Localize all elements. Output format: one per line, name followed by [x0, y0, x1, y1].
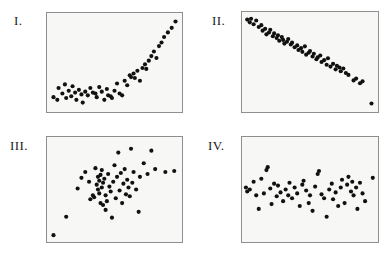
data-point	[257, 207, 261, 211]
data-point	[64, 215, 68, 219]
data-point	[281, 199, 285, 203]
data-point	[124, 192, 128, 196]
data-point	[163, 170, 167, 174]
data-point	[349, 189, 353, 193]
data-point	[149, 54, 153, 58]
data-point	[111, 180, 115, 184]
data-point	[327, 187, 331, 191]
data-point	[92, 195, 96, 199]
data-point	[325, 63, 329, 67]
data-point	[130, 181, 134, 185]
data-point	[259, 177, 263, 181]
data-point	[100, 185, 104, 189]
data-point	[88, 197, 92, 201]
data-point	[114, 196, 118, 200]
data-point	[276, 184, 280, 188]
data-point	[325, 215, 329, 219]
data-point	[299, 46, 303, 50]
data-point	[123, 79, 127, 83]
data-point	[286, 37, 290, 41]
data-point	[110, 96, 114, 100]
data-point	[295, 191, 299, 195]
data-point	[345, 183, 349, 187]
panel-iv-scatter-svg	[242, 137, 378, 242]
data-point	[159, 40, 163, 44]
data-point	[318, 53, 322, 57]
data-point	[95, 183, 99, 187]
data-point	[331, 197, 335, 201]
data-point	[131, 71, 135, 75]
data-point	[263, 27, 267, 31]
data-point	[74, 98, 78, 102]
data-point	[331, 62, 335, 66]
data-point	[259, 23, 263, 27]
data-point	[272, 31, 276, 35]
data-point	[51, 233, 55, 237]
data-point	[276, 33, 280, 37]
data-point	[317, 169, 321, 173]
data-point	[76, 186, 80, 190]
data-point	[166, 30, 170, 34]
data-point	[173, 19, 177, 23]
data-point	[147, 59, 151, 63]
data-point	[128, 194, 132, 198]
panel-ii-scatter-svg	[242, 12, 378, 112]
data-point	[371, 176, 375, 180]
data-point	[284, 187, 288, 191]
data-point	[308, 193, 312, 197]
data-point	[249, 17, 253, 21]
data-point	[56, 86, 60, 90]
data-point	[97, 85, 101, 89]
data-point	[104, 208, 108, 212]
data-point	[102, 177, 106, 181]
scatterplot-figure: I. II. III. IV.	[0, 0, 390, 259]
data-point	[70, 84, 74, 88]
data-point	[96, 187, 100, 191]
data-point	[308, 49, 312, 53]
data-point	[286, 193, 290, 197]
data-point	[272, 182, 276, 186]
data-point	[87, 180, 91, 184]
data-point	[115, 175, 119, 179]
data-point	[152, 50, 156, 54]
data-point	[126, 185, 130, 189]
data-point	[351, 193, 355, 197]
data-point	[354, 77, 358, 81]
data-point	[81, 101, 85, 105]
data-point	[319, 192, 323, 196]
data-point	[254, 18, 258, 22]
data-point	[266, 165, 270, 169]
data-point	[93, 91, 97, 95]
data-point	[98, 173, 102, 177]
data-point	[138, 175, 142, 179]
data-point	[346, 73, 350, 77]
data-point	[298, 204, 302, 208]
data-point	[133, 76, 137, 80]
data-point	[252, 180, 256, 184]
data-point	[55, 98, 59, 102]
data-point	[346, 175, 350, 179]
data-point	[97, 191, 101, 195]
data-point	[135, 69, 139, 73]
data-point	[79, 176, 83, 180]
data-point	[326, 56, 330, 60]
data-point	[343, 201, 347, 205]
data-point	[295, 43, 299, 47]
data-point	[310, 209, 314, 213]
data-point	[304, 188, 308, 192]
data-point	[360, 191, 364, 195]
data-point	[129, 147, 133, 151]
data-point	[248, 20, 252, 24]
data-point	[69, 94, 73, 98]
data-point	[83, 90, 87, 94]
data-point	[101, 203, 105, 207]
data-point	[100, 168, 104, 172]
data-point	[354, 185, 358, 189]
data-point	[118, 188, 122, 192]
data-point	[278, 190, 282, 194]
data-point	[93, 166, 97, 170]
data-point	[138, 79, 142, 83]
data-point	[337, 65, 341, 69]
data-point	[105, 87, 109, 91]
data-point	[313, 185, 317, 189]
